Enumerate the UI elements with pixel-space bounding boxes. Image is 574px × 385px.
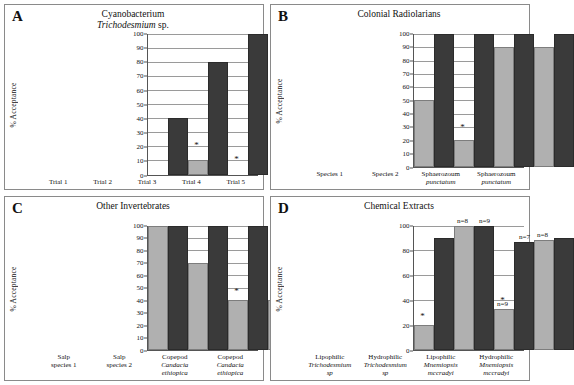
bar-group <box>494 34 534 167</box>
x-tick-label: LipophilicMnemiopsismccradyi <box>413 351 469 377</box>
bar-light[interactable] <box>534 47 554 166</box>
plot-column: *n=8n=9n=9n=7*n=8 <box>413 226 525 352</box>
significance-marker: * <box>234 156 239 163</box>
y-tick-label: 100 <box>133 222 144 229</box>
panel-a: ACyanobacteriumTrichodesmium sp.% Accept… <box>4 4 264 190</box>
x-tick-label-line: Trichodesmium <box>302 361 358 369</box>
species-name: Trichodesmium <box>97 20 156 30</box>
species-suffix: sp. <box>156 20 169 30</box>
significance-marker: * <box>420 313 425 320</box>
plot-area: % Acceptance0102030405060708090100**** <box>8 34 258 176</box>
plot-column: ** <box>147 226 259 352</box>
bar-light[interactable] <box>414 325 434 350</box>
y-tick-label: 20 <box>403 322 410 329</box>
x-tick-label-line: mccradyi <box>413 369 469 377</box>
bar-group: * <box>228 34 268 175</box>
bar-dark[interactable] <box>474 34 494 167</box>
x-tick-label-line: punctatum <box>469 178 525 186</box>
bar-light[interactable] <box>454 226 474 351</box>
x-axis-labels: Salpspecies 1Salpspecies 2CopepodCandaci… <box>25 351 258 377</box>
panel-b: BColonial Radiolarians% Acceptance010203… <box>270 4 530 190</box>
x-tick-label-line: Copepod <box>147 353 203 361</box>
bar-dark[interactable] <box>248 34 268 175</box>
x-tick-label: Trial 2 <box>80 176 124 186</box>
bar-light[interactable] <box>148 226 168 351</box>
bar-light[interactable] <box>188 263 208 350</box>
bar-group: n=9n=7* <box>494 226 534 351</box>
x-tick-label: Sphaerozoumpunctatum <box>469 168 525 186</box>
bar-dark[interactable] <box>514 34 534 167</box>
x-label-spacer <box>291 168 302 186</box>
y-tick-label: 80 <box>403 247 410 254</box>
bar-light[interactable] <box>454 140 474 167</box>
y-tick-label: 90 <box>137 45 144 52</box>
bar-group <box>534 34 574 167</box>
bar-dark[interactable] <box>434 238 454 350</box>
n-label: n=7 <box>519 234 530 241</box>
y-axis-ticks: 0102030405060708090100 <box>19 226 147 352</box>
x-tick-label-line: Lipophilic <box>302 353 358 361</box>
x-tick-label-line: species 2 <box>92 361 148 369</box>
x-tick-label-line: Sphaerozoum <box>469 170 525 178</box>
x-label-spacer <box>25 351 36 377</box>
y-tick-label: 10 <box>403 151 410 158</box>
x-tick-label-line: Sphaerozoum <box>413 170 469 178</box>
plot-canvas: ** <box>147 226 259 352</box>
significance-marker: * <box>234 288 239 295</box>
bar-group <box>148 34 188 175</box>
y-tick-label: 10 <box>137 335 144 342</box>
significance-marker: * <box>194 142 199 149</box>
bar-dark[interactable] <box>168 118 188 174</box>
bar-dark[interactable] <box>248 226 268 351</box>
bar-dark[interactable] <box>514 242 534 350</box>
bar-dark[interactable] <box>474 226 494 351</box>
y-tick-label: 80 <box>137 247 144 254</box>
bar-light[interactable] <box>414 100 434 166</box>
bar-dark[interactable] <box>554 238 574 350</box>
x-tick-label: Salpspecies 2 <box>92 351 148 377</box>
x-tick-label-line: Hydrophilic <box>358 353 414 361</box>
bar-group: * <box>188 34 228 175</box>
bar-dark[interactable] <box>554 34 574 167</box>
y-tick-label: 90 <box>137 235 144 242</box>
panel-letter: C <box>12 200 23 217</box>
y-tick-label: 40 <box>137 297 144 304</box>
bar-light[interactable] <box>494 309 514 350</box>
y-tick-label: 60 <box>403 84 410 91</box>
bar-dark[interactable] <box>434 34 454 167</box>
x-tick-label-line: Hydrophilic <box>469 353 525 361</box>
x-tick-label: HydrophilicMnemiopsismccradyi <box>469 351 525 377</box>
n-label: n=8 <box>537 232 548 239</box>
x-tick-label-line: Salp <box>92 353 148 361</box>
bar-dark[interactable] <box>168 226 188 351</box>
x-tick-label: CopepodCandaciaethiopica <box>147 351 203 377</box>
plot-canvas: * <box>413 34 525 168</box>
bar-dark[interactable] <box>208 62 228 174</box>
x-tick-label: Trial 1 <box>36 176 80 186</box>
y-tick-label: 50 <box>137 285 144 292</box>
bar-dark[interactable] <box>208 226 228 351</box>
bar-groups: **** <box>148 34 259 175</box>
bar-light[interactable] <box>494 47 514 166</box>
y-axis-label: % Acceptance <box>274 226 285 352</box>
y-tick-label: 70 <box>137 73 144 80</box>
y-tick-label: 60 <box>403 272 410 279</box>
bar-group: * <box>414 226 454 351</box>
panel-c: COther Invertebrates% Acceptance01020304… <box>4 196 264 382</box>
panel-title: Chemical Extracts <box>274 200 524 212</box>
bar-light[interactable] <box>228 300 248 350</box>
y-tick-label: 20 <box>403 137 410 144</box>
y-axis-ticks: 020406080100 <box>285 226 413 352</box>
bar-group: * <box>228 226 268 351</box>
y-tick-label: 80 <box>137 59 144 66</box>
panel-title: CyanobacteriumTrichodesmium sp. <box>8 8 258 31</box>
panel-title-line1: Other Invertebrates <box>8 201 258 212</box>
panel-d: DChemical Extracts% Acceptance0204060801… <box>270 196 530 382</box>
x-tick-label-line: Species 2 <box>358 170 414 178</box>
x-tick-label: Species 2 <box>358 168 414 186</box>
y-tick-label: 10 <box>137 158 144 165</box>
bar-light[interactable] <box>188 160 208 174</box>
y-tick-label: 50 <box>403 97 410 104</box>
bar-light[interactable] <box>534 240 554 350</box>
